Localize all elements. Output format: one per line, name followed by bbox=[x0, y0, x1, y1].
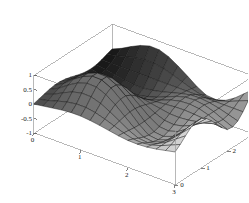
z-tick-label: 0 bbox=[29, 100, 33, 108]
y-tick-label: 1 bbox=[206, 164, 210, 172]
z-tick-label: -0.5 bbox=[21, 115, 33, 123]
z-tick-label: 0.5 bbox=[23, 86, 32, 94]
y-tick-mark bbox=[175, 185, 178, 186]
x-tick-label: 2 bbox=[125, 171, 129, 179]
y-tick-mark bbox=[227, 151, 230, 152]
frame-bottom-right-edge bbox=[175, 134, 248, 185]
z-tick-mark bbox=[34, 119, 37, 120]
x-tick-label: 1 bbox=[78, 153, 82, 161]
x-tick-label: 0 bbox=[31, 136, 35, 144]
x-tick-label: 3 bbox=[172, 188, 176, 196]
surface-mesh bbox=[34, 45, 249, 152]
surface-patch bbox=[239, 89, 248, 101]
y-tick-label: 2 bbox=[233, 147, 237, 155]
plot-canvas: -1-0.500.5101230123 bbox=[0, 0, 248, 203]
y-tick-mark bbox=[201, 168, 204, 169]
z-tick-mark bbox=[34, 90, 37, 91]
z-tick-label: 1 bbox=[29, 71, 33, 79]
y-tick-label: 0 bbox=[180, 181, 184, 189]
surface-plot-figure: -1-0.500.5101230123 bbox=[0, 0, 248, 203]
